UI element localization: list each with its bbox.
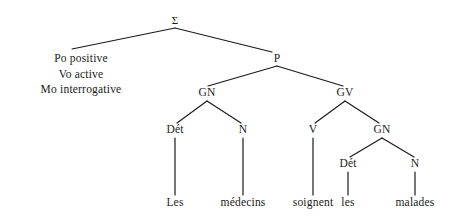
tree-edge-root-to-features xyxy=(72,28,175,49)
node-n-subject: N xyxy=(239,124,248,136)
tree-edge-root-to-P xyxy=(175,28,272,52)
tree-edge-P-to-GN1 xyxy=(208,66,277,86)
node-gn-subject: GN xyxy=(198,87,215,99)
feature-polarity: Po positive xyxy=(16,51,146,67)
tree-edge-P-to-GV xyxy=(277,66,343,86)
tree-edge-GV-to-GN2 xyxy=(345,101,379,123)
node-det-object: Dét xyxy=(339,158,356,170)
feature-modality: Mo interrogative xyxy=(16,82,146,98)
terminal-soignent: soignent xyxy=(293,197,334,209)
node-det-subject: Dét xyxy=(166,124,183,136)
tree-edge-GN2-to-N2 xyxy=(382,138,414,157)
node-p: P xyxy=(274,53,281,65)
syntax-tree-diagram: Po positive Vo active Mo interrogative Σ… xyxy=(0,0,460,219)
node-n-object: N xyxy=(411,158,420,170)
feature-list: Po positive Vo active Mo interrogative xyxy=(16,51,146,98)
tree-edge-GN2-to-DET2 xyxy=(350,138,382,157)
terminal-medecins: médecins xyxy=(220,197,265,209)
terminal-les-subject: Les xyxy=(166,197,183,209)
tree-edge-GN1-to-N1 xyxy=(207,101,241,123)
node-gv: GV xyxy=(336,87,353,99)
tree-edge-GN1-to-DET1 xyxy=(177,101,207,123)
node-root-sigma: Σ xyxy=(172,15,179,26)
tree-edge-GV-to-V xyxy=(315,101,345,123)
tree-edges-layer xyxy=(0,0,460,219)
feature-voice: Vo active xyxy=(16,67,146,83)
node-v: V xyxy=(309,124,318,136)
terminal-les-object: les xyxy=(341,197,354,209)
terminal-malades: malades xyxy=(395,197,434,209)
node-gn-object: GN xyxy=(373,124,390,136)
